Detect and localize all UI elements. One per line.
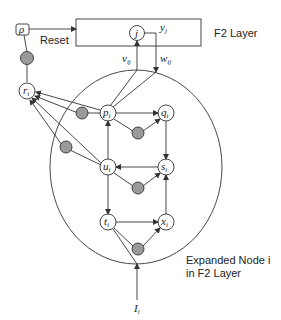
expanded-node-label-line2: in F2 Layer <box>186 267 241 279</box>
gate-s-edge <box>143 173 160 186</box>
v-label: vij <box>122 52 131 66</box>
gate-x-edge <box>143 228 160 246</box>
expanded-node-label-line1: Expanded Node i <box>186 254 270 266</box>
rho-label: ρ <box>18 23 24 35</box>
u-gate-s-edge <box>114 173 133 186</box>
gate-u-r-edge <box>30 100 62 145</box>
art-network-diagram: F2 Layer ρ Reset j yj vij wij ri pi qi u… <box>0 0 281 320</box>
gate-q-edge <box>143 119 160 131</box>
f2-layer-label: F2 Layer <box>214 27 258 39</box>
p-w-edge <box>113 72 156 107</box>
gate-p-r-edge <box>35 96 78 113</box>
p-gate-q-edge <box>114 119 133 131</box>
reset-label: Reset <box>40 34 69 46</box>
input-label: Ii <box>133 302 140 316</box>
inhibitory-gate-icon <box>132 243 144 255</box>
p-v-edge <box>110 70 137 106</box>
inhibitory-gate-icon <box>132 182 144 194</box>
inhibitory-gate-icon <box>21 52 34 65</box>
rho-gate-edge <box>24 35 27 52</box>
t-gate-x-edge <box>114 228 133 246</box>
w-label: wij <box>160 52 171 66</box>
u-gate-edge <box>70 150 101 165</box>
inhibitory-gate-icon <box>60 141 72 153</box>
inhibitory-gate-icon <box>76 107 88 119</box>
inhibitory-gate-icon <box>132 127 144 139</box>
